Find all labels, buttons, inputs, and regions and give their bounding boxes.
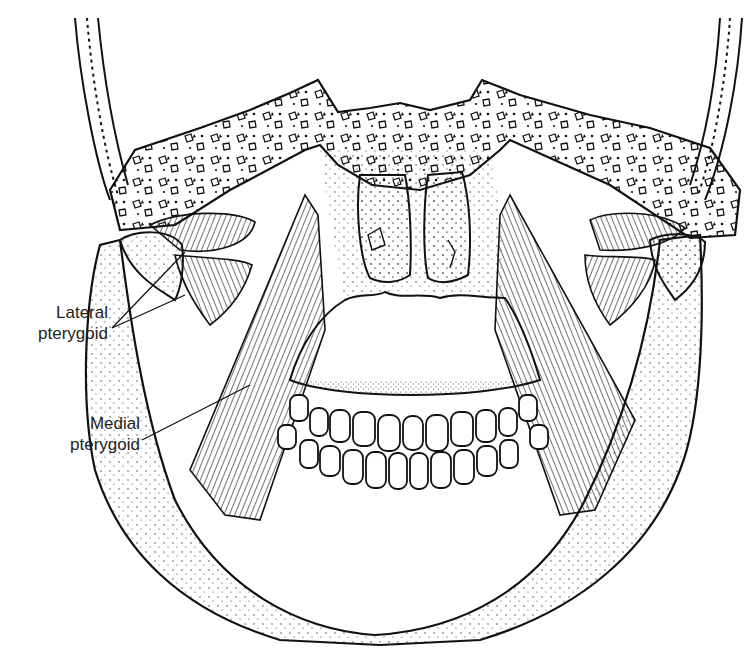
label-lateral-pterygoid: Lateral pterygoid — [18, 302, 108, 344]
label-line: Medial — [30, 413, 140, 434]
label-line: pterygoid — [18, 323, 108, 344]
label-medial-pterygoid: Medial pterygoid — [30, 413, 140, 455]
label-line: Lateral — [18, 302, 108, 323]
teeth — [278, 395, 548, 489]
anatomical-illustration — [0, 0, 748, 652]
label-line: pterygoid — [30, 434, 140, 455]
